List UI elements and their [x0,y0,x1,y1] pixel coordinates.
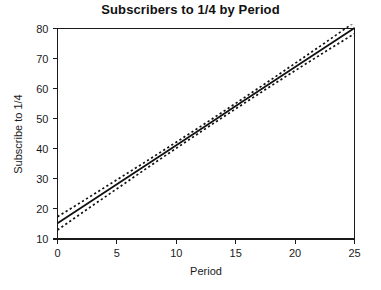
x-tick-label: 10 [170,247,182,259]
y-tick-label: 80 [36,23,48,35]
y-tick-label: 20 [36,203,48,215]
upper-confidence-band [58,22,355,217]
y-axis-ticks: 1020304050607080 [36,23,57,246]
x-tick-label: 20 [289,247,301,259]
fitted-regression-line [58,28,355,223]
plot-area: 1020304050607080 0510152025 Period Subsc… [0,0,381,290]
y-tick-label: 40 [36,143,48,155]
plot-frame [58,29,355,240]
y-tick-label: 50 [36,113,48,125]
y-tick-label: 70 [36,53,48,65]
lower-confidence-band [58,34,355,230]
x-tick-label: 15 [230,247,242,259]
x-tick-label: 0 [54,247,60,259]
y-axis-title: Subscribe to 1/4 [12,94,24,174]
chart-figure: Subscribers to 1/4 by Period 10203040506… [0,0,381,290]
x-axis-title: Period [190,265,222,277]
x-tick-label: 25 [348,247,360,259]
x-tick-label: 5 [114,247,120,259]
x-axis-ticks: 0510152025 [54,239,360,259]
data-series-group [58,22,355,230]
y-tick-label: 30 [36,173,48,185]
y-tick-label: 60 [36,83,48,95]
y-tick-label: 10 [36,233,48,245]
